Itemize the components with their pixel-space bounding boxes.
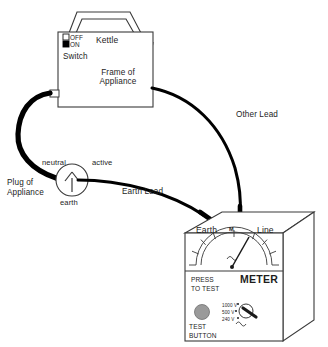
voltage-option-240v[interactable]: 240 V — [222, 317, 235, 322]
meter-side-face — [283, 212, 314, 341]
kettle-handle-inner — [76, 19, 134, 33]
voltage-option-1000v[interactable]: 1000 V — [222, 303, 237, 308]
kettle-handle-outer — [69, 12, 141, 33]
circuit-diagram-canvas — [0, 0, 328, 347]
switch-caption: Switch — [63, 52, 88, 61]
frame-of-appliance-label: Frame of Appliance — [88, 68, 148, 86]
plug-active-label: active — [92, 159, 112, 168]
earth-lead-wire — [78, 180, 205, 216]
selector-dot-240v[interactable] — [237, 317, 239, 319]
selector-dot-500v[interactable] — [235, 310, 237, 312]
switch-on-label: ON — [70, 41, 80, 48]
meter-line-terminal-label: Line — [257, 226, 274, 236]
press-to-test-label: PRESS TO TEST — [191, 276, 219, 293]
earth-lead-label: Earth Lead — [122, 187, 163, 196]
meter-unit-symbol-label: M — [229, 226, 234, 232]
test-button[interactable] — [195, 305, 210, 320]
voltage-option-500v[interactable]: 500 V — [222, 310, 235, 315]
switch-off-indicator[interactable] — [63, 34, 69, 40]
switch-on-indicator[interactable] — [63, 41, 69, 47]
gauge-pivot — [230, 265, 234, 269]
plug-neutral-label: neutral — [42, 159, 66, 168]
test-button-label: TEST BUTTON — [189, 323, 217, 340]
kettle-label: Kettle — [96, 36, 118, 46]
selector-dot-1000v[interactable] — [237, 303, 239, 305]
plug-earth-label: earth — [60, 199, 78, 208]
plug-of-appliance-label: Plug of Appliance — [7, 178, 53, 198]
meter-earth-terminal-label: Earth — [196, 226, 217, 236]
meter-brand-label: METER — [240, 274, 278, 286]
other-lead-label: Other Lead — [236, 110, 278, 119]
